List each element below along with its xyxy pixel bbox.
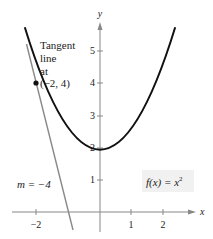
y-axis-arrow-icon bbox=[98, 22, 103, 30]
function-label: f(x) = x2 bbox=[146, 175, 183, 189]
y-tick-label-4: 4 bbox=[90, 77, 95, 88]
chart: −2 1 2 1 2 3 4 5 y x Tangent line at (−2… bbox=[0, 0, 213, 239]
function-label-base: f(x) = x bbox=[146, 176, 179, 189]
x-axis-arrow-icon bbox=[188, 210, 196, 215]
x-axis-label: x bbox=[199, 206, 205, 217]
tangent-label-line1: Tangent bbox=[40, 39, 75, 51]
x-tick-label-neg2: −2 bbox=[31, 219, 42, 230]
tangent-line bbox=[27, 44, 74, 230]
tangent-label-line3: at bbox=[40, 65, 48, 77]
y-tick-label-5: 5 bbox=[90, 45, 95, 56]
tangent-point-marker bbox=[33, 80, 38, 85]
y-tick-label-3: 3 bbox=[90, 110, 95, 121]
y-axis-label: y bbox=[97, 8, 103, 19]
x-tick-label-2: 2 bbox=[161, 219, 166, 230]
tangent-point-label: (−2, 4) bbox=[40, 77, 70, 90]
y-tick-label-1: 1 bbox=[90, 174, 95, 185]
x-tick-label-1: 1 bbox=[129, 219, 134, 230]
tangent-label-line2: line bbox=[40, 52, 57, 64]
slope-label: m = −4 bbox=[17, 178, 51, 190]
function-label-exponent: 2 bbox=[179, 175, 183, 183]
